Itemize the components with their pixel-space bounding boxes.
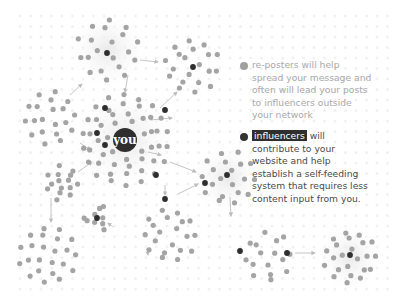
legend-influencers-title: influencers will bbox=[252, 130, 392, 143]
legend-reposters-line: often will lead your posts bbox=[252, 84, 392, 97]
legend-influencers-line: contribute to your bbox=[252, 143, 392, 156]
legend-influencers-line: system that requires less bbox=[252, 180, 392, 193]
legend-reposters-line: re-posters will help bbox=[252, 59, 392, 72]
legend-reposters-line: your network bbox=[252, 109, 392, 122]
influencers-highlight: influencers bbox=[252, 130, 307, 141]
legend-influencers-line: content input from you. bbox=[252, 193, 392, 206]
legend-reposters-line: spread your message and bbox=[252, 72, 392, 85]
legend-influencers-first-rest: will bbox=[307, 130, 325, 141]
you-label: you bbox=[112, 133, 137, 147]
influencer-bullet-icon bbox=[240, 133, 248, 141]
legend-influencers: influencers will contribute to your webs… bbox=[252, 130, 392, 206]
legend-influencers-line: establish a self-feeding bbox=[252, 168, 392, 181]
reposter-bullet-icon bbox=[240, 62, 248, 70]
legend-reposters: re-posters will help spread your message… bbox=[252, 59, 392, 122]
legend-reposters-line: to influencers outside bbox=[252, 97, 392, 110]
legend-influencers-line: website and help bbox=[252, 155, 392, 168]
